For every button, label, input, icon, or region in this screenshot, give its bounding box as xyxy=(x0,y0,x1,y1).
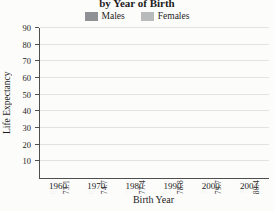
legend-label-females: Females xyxy=(158,11,190,21)
y-tick-label: 80 xyxy=(23,40,32,50)
y-tick-label: 90 xyxy=(23,23,32,33)
legend-label-males: Males xyxy=(102,11,125,21)
bar-groups: 66.673.167.174.770.077.471.878.874.379.7… xyxy=(40,28,269,178)
plot-area: 66.673.167.174.770.077.471.878.874.379.7… xyxy=(39,28,269,179)
x-axis-labels: 196019701980199020002004 xyxy=(39,181,268,191)
x-tick-label: 2000 xyxy=(192,181,230,191)
chart-title: by Year of Birth xyxy=(0,0,274,9)
x-axis-title: Birth Year xyxy=(39,194,268,205)
y-axis: 102030405060708090 xyxy=(0,28,39,178)
y-tick-label: 10 xyxy=(23,156,32,166)
y-tick-label: 50 xyxy=(23,90,32,100)
x-tick-label: 2004 xyxy=(230,181,268,191)
x-tick-label: 1970 xyxy=(77,181,115,191)
x-tick-label: 1980 xyxy=(115,181,153,191)
x-tick-label: 1990 xyxy=(154,181,192,191)
y-tick-label: 70 xyxy=(23,56,32,66)
y-tick-label: 60 xyxy=(23,73,32,83)
females-swatch xyxy=(141,12,154,21)
y-tick-label: 20 xyxy=(23,140,32,150)
life-expectancy-bar-chart: by Year of Birth Males Females Life Expe… xyxy=(0,0,274,211)
males-swatch xyxy=(85,12,98,21)
x-tick-label: 1960 xyxy=(39,181,77,191)
legend: Males Females xyxy=(0,11,274,21)
legend-item-females: Females xyxy=(141,11,190,21)
y-tick-label: 40 xyxy=(23,106,32,116)
legend-item-males: Males xyxy=(85,11,125,21)
y-tick-label: 30 xyxy=(23,123,32,133)
